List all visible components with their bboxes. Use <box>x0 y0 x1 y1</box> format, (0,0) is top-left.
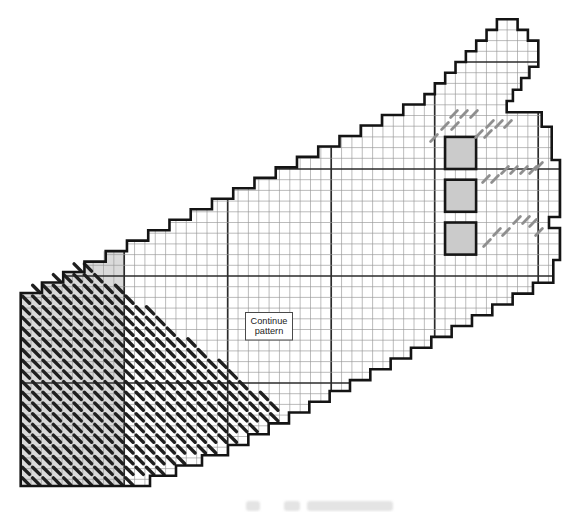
continue-pattern-label-line1: Continue <box>251 316 288 326</box>
caption-smudge <box>246 501 260 511</box>
eyelet-square <box>445 223 476 255</box>
eyelet-square <box>445 137 476 169</box>
figure-caption-cropped <box>0 501 579 512</box>
eyelet-squares <box>445 137 476 255</box>
caption-smudge <box>307 501 393 511</box>
caption-smudge <box>284 501 300 511</box>
continue-pattern-label-line2: pattern <box>255 326 284 336</box>
eyelet-square <box>445 180 476 212</box>
pattern-chart-svg: Continue pattern <box>0 0 579 512</box>
figure-stage: Continue pattern <box>0 0 579 512</box>
continue-pattern-box: Continue pattern <box>246 313 293 341</box>
